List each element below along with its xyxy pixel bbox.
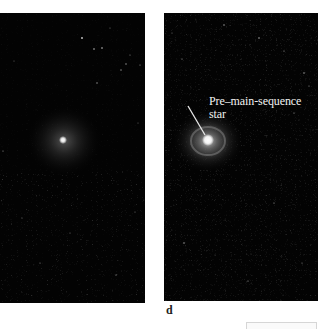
image-panel-d: Pre–main-sequence star <box>164 13 318 301</box>
pre-main-sequence-star <box>202 134 214 146</box>
young-star <box>59 136 67 144</box>
caption-box <box>246 322 317 329</box>
annotation-label: Pre–main-sequence star <box>209 95 301 121</box>
star-field-image <box>0 13 145 303</box>
panel-label-d: d <box>166 303 173 318</box>
star-field-image <box>164 13 318 301</box>
annotation-line-2: star <box>209 108 301 121</box>
image-panel-c <box>0 13 145 303</box>
